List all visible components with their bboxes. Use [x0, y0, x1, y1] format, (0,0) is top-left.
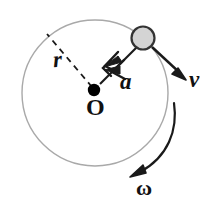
angular-velocity-label: ω [136, 177, 152, 199]
omega-arc-shaft [140, 103, 175, 172]
velocity-arrowhead [172, 68, 186, 80]
center-label: O [86, 95, 105, 119]
velocity-vector [152, 47, 186, 80]
acceleration-label: a [120, 70, 132, 93]
figure-canvas [0, 0, 215, 215]
circular-motion-figure: r a v O ω [0, 0, 215, 215]
particle-ball [132, 27, 155, 50]
radius-label: r [52, 48, 63, 72]
angular-velocity-arc [130, 103, 175, 177]
velocity-label: v [189, 68, 199, 91]
